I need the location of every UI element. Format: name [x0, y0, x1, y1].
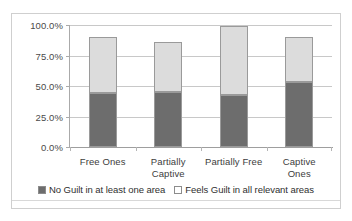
bar-segment-no-guilt[interactable] [154, 92, 182, 147]
bar-segment-no-guilt[interactable] [220, 95, 248, 147]
x-tick-label-partially-captive: Partially Captive [151, 156, 186, 180]
bar-segment-feels-guilt[interactable] [89, 37, 117, 93]
legend-entry-feels-guilt[interactable]: Feels Guilt in all relevant areas [174, 184, 314, 195]
legend-divider [12, 200, 340, 201]
y-tick-mark-75 [66, 56, 70, 57]
x-tick-label-free-ones: Free Ones [80, 156, 126, 168]
legend-swatch-light-icon [174, 186, 182, 194]
legend-label-no-guilt: No Guilt in at least one area [49, 184, 165, 195]
y-tick-label-0: 0.0% [41, 142, 63, 153]
y-tick-mark-50 [66, 86, 70, 87]
x-tick-label-captive-ones: Captive Ones [283, 156, 316, 180]
y-tick-label-75: 75.0% [36, 50, 63, 61]
y-tick-label-50: 50.0% [36, 81, 63, 92]
bar-segment-feels-guilt[interactable] [154, 42, 182, 92]
x-tick-mark-2 [201, 147, 202, 151]
legend-label-feels-guilt: Feels Guilt in all relevant areas [185, 184, 314, 195]
x-tick-mark-4 [331, 147, 332, 151]
gridline-100: 100.0% [70, 25, 332, 26]
x-tick-mark-3 [267, 147, 268, 151]
legend-swatch-dark-icon [38, 186, 46, 194]
x-tick-mark-0 [70, 147, 71, 151]
bar-segment-no-guilt[interactable] [285, 82, 313, 147]
y-tick-label-100: 100.0% [30, 20, 63, 31]
bar-segment-feels-guilt[interactable] [285, 37, 313, 82]
chart-frame: 100.0% 75.0% 50.0% 25.0% 0.0% Free One [11, 13, 341, 209]
legend-entry-no-guilt[interactable]: No Guilt in at least one area [38, 184, 165, 195]
x-tick-mark-1 [136, 147, 137, 151]
chart-legend: No Guilt in at least one area Feels Guil… [12, 184, 340, 195]
y-tick-label-25: 25.0% [36, 111, 63, 122]
bar-segment-no-guilt[interactable] [89, 93, 117, 147]
bar-segment-feels-guilt[interactable] [220, 26, 248, 94]
plot-area: 100.0% 75.0% 50.0% 25.0% 0.0% Free One [70, 25, 332, 147]
y-tick-mark-100 [66, 25, 70, 26]
x-tick-label-partially-free: Partially Free [205, 156, 262, 168]
y-tick-mark-25 [66, 117, 70, 118]
